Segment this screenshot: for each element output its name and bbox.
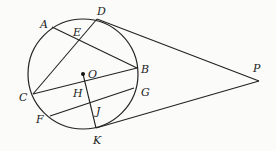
- label-F: F: [35, 113, 44, 126]
- label-B: B: [140, 63, 149, 76]
- label-P: P: [252, 62, 261, 75]
- diagram-canvas: A D E B C O H G F J K P: [0, 0, 276, 151]
- geometry-diagram: A D E B C O H G F J K P: [0, 0, 276, 151]
- label-K: K: [92, 134, 102, 147]
- label-G: G: [141, 86, 150, 99]
- label-D: D: [96, 5, 106, 18]
- label-E: E: [72, 26, 81, 39]
- label-O: O: [88, 68, 97, 81]
- tangent-KP: [96, 81, 259, 128]
- label-A: A: [39, 18, 48, 31]
- label-H: H: [72, 87, 83, 100]
- label-C: C: [19, 91, 28, 104]
- label-J: J: [94, 105, 101, 118]
- center-point-O: [81, 72, 85, 76]
- segment-AB: [52, 27, 137, 68]
